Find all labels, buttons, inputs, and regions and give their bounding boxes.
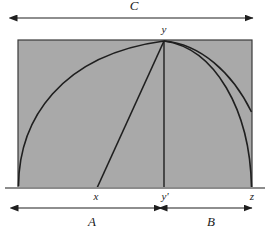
shaded-rectangle: [18, 40, 252, 188]
bottom-dimension-b-group: B: [167, 208, 252, 229]
label-c: C: [130, 0, 139, 13]
top-dimension-group: C: [17, 0, 253, 18]
label-y-prime: y': [160, 190, 169, 202]
label-a: A: [87, 214, 96, 229]
geometry-figure: C x y y' z A B: [0, 0, 269, 234]
label-y: y: [161, 23, 167, 35]
figure-canvas: C x y y' z A B: [0, 0, 269, 234]
label-b: B: [207, 214, 215, 229]
bottom-dimension-a-group: A: [18, 208, 162, 229]
label-x: x: [93, 190, 99, 202]
label-z: z: [249, 190, 255, 202]
